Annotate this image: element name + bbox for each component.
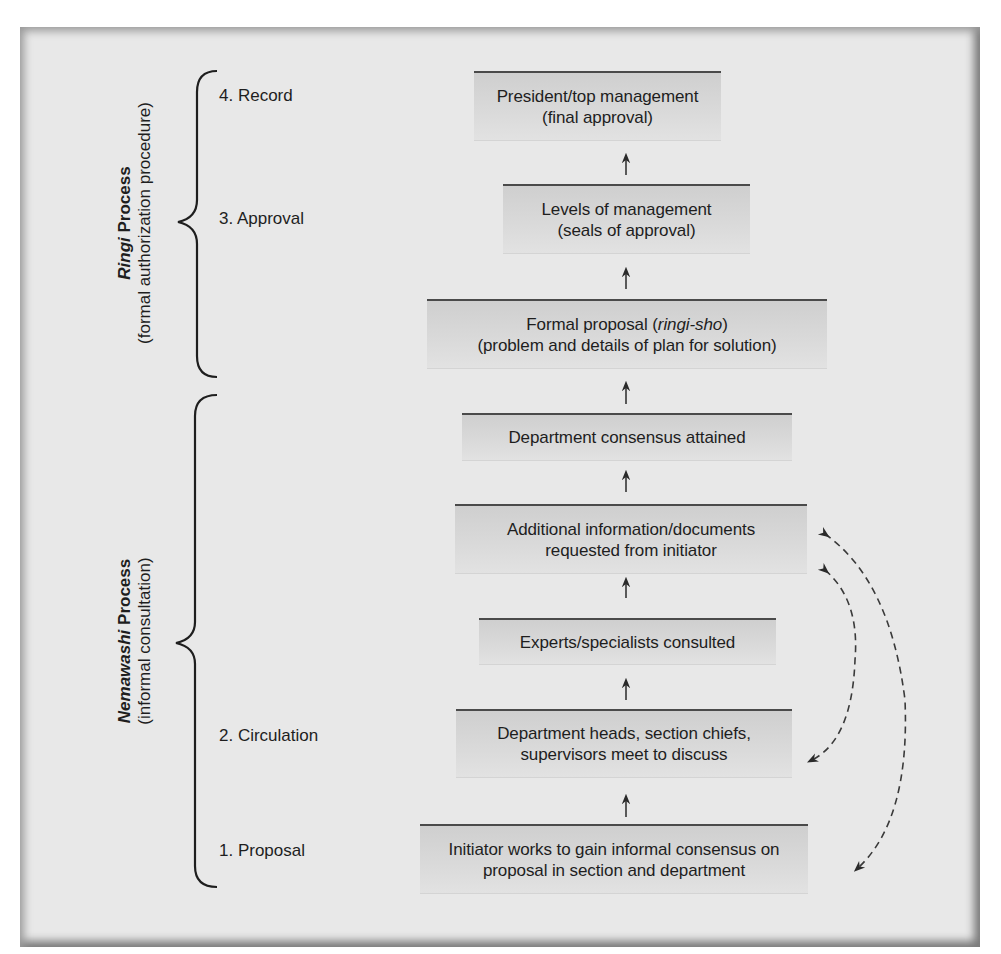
nemawashi-brace-icon [176,395,217,887]
diagram-connectors [0,0,1001,954]
ringi-brace-icon [178,71,217,377]
dashed-feedback-arrows [812,534,905,868]
